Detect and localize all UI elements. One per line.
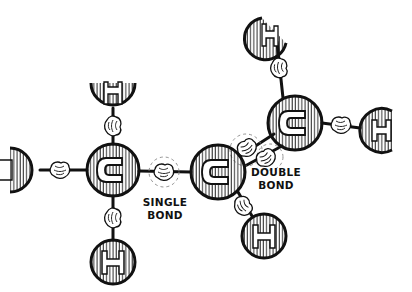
handshake-icon (270, 57, 288, 78)
molecule-diagram (0, 0, 412, 292)
handshake-icon (105, 208, 121, 228)
hydrogen-atom-bottom-middle (242, 214, 286, 258)
handshake-icon (105, 116, 121, 136)
single-bond-label-line2: BOND (141, 209, 189, 222)
handshake-icon (154, 164, 174, 180)
carbon-atom-right (268, 96, 322, 150)
single-bond-label-line1: SINGLE (141, 196, 189, 209)
hydrogen-atom-top-right (244, 18, 286, 60)
hydrogen-atom-bottom-left (91, 240, 135, 284)
hydrogen-atom-left (0, 148, 32, 192)
handshake-icon (331, 117, 351, 133)
double-bond-label-line2: BOND (250, 179, 302, 192)
handshake-icon (50, 162, 70, 178)
hydrogen-atom-top-left (91, 82, 135, 105)
carbon-atom-left (87, 144, 139, 196)
hydrogen-atom-right (360, 109, 392, 153)
carbon-atom-middle (191, 145, 245, 199)
double-bond-label: DOUBLE BOND (250, 166, 302, 192)
single-bond-label: SINGLE BOND (141, 196, 189, 222)
double-bond-label-line1: DOUBLE (250, 166, 302, 179)
